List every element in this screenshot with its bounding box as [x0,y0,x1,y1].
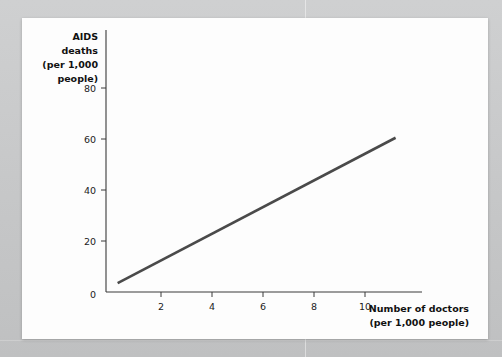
x-axis-title-line-1: Number of doctors [369,303,470,314]
x-axis-title-line-2: (per 1,000 people) [369,317,469,328]
y-axis-title-line-4: people) [57,73,98,84]
y-tick-label-20: 20 [84,236,96,247]
y-tick-label-60: 60 [84,134,96,145]
chart-svg: 80 60 40 20 0 2 4 6 8 10 AIDS deaths (pe… [22,18,488,339]
chart-figure: 80 60 40 20 0 2 4 6 8 10 AIDS deaths (pe… [22,18,488,339]
screenshot-root: 80 60 40 20 0 2 4 6 8 10 AIDS deaths (pe… [0,0,502,357]
data-line-series-0 [118,138,396,283]
x-tick-marks [161,292,365,297]
x-tick-label-6: 6 [260,301,266,312]
figure-page: 80 60 40 20 0 2 4 6 8 10 AIDS deaths (pe… [22,18,488,339]
y-axis-title-line-3: (per 1,000 [42,59,98,70]
y-axis-title: AIDS deaths (per 1,000 people) [42,31,98,84]
y-axis-title-line-1: AIDS [72,31,98,42]
x-tick-label-8: 8 [311,301,317,312]
x-axis-title: Number of doctors (per 1,000 people) [369,303,470,328]
background-seam-horizontal [0,340,502,341]
x-tick-label-2: 2 [158,301,164,312]
x-tick-label-4: 4 [209,301,215,312]
y-tick-label-80: 80 [84,83,96,94]
y-axis-title-line-2: deaths [61,45,98,56]
y-tick-label-0: 0 [90,289,96,300]
y-tick-marks [101,88,106,241]
y-tick-label-40: 40 [84,185,96,196]
